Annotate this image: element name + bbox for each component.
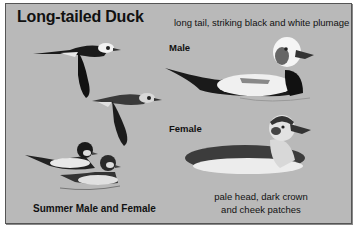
flying-female-duck-icon: [92, 93, 162, 146]
summer-male-duck-icon: [25, 142, 98, 170]
swimming-female-duck-icon: [185, 115, 311, 174]
flying-male-duck-icon: [33, 43, 121, 98]
duck-illustrations: [0, 0, 357, 232]
swimming-male-duck-icon: [165, 37, 314, 101]
